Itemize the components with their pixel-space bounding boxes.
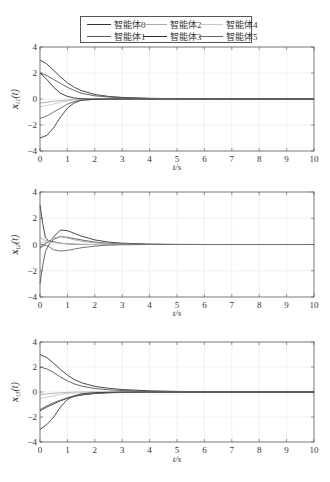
x-tick-label: 9	[284, 154, 289, 164]
legend-line-icon	[87, 36, 111, 37]
x-tick-label: 8	[257, 445, 262, 455]
x-tick-label: 10	[310, 445, 320, 455]
figure-canvas: 012345678910−4−2024t/sxi1(t)012345678910…	[0, 0, 330, 482]
x-tick-label: 4	[147, 300, 152, 310]
x-tick-label: 2	[93, 445, 98, 455]
legend: 智能体0 智能体1 智能体2 智能体3 智能体4 智能体5	[80, 16, 252, 43]
y-tick-label: 4	[33, 337, 38, 347]
x-tick-label: 7	[230, 300, 235, 310]
x-tick-label: 6	[202, 300, 207, 310]
y-axis-label: xi3(t)	[9, 381, 22, 403]
legend-line-icon	[143, 36, 167, 37]
x-tick-label: 3	[120, 300, 125, 310]
y-tick-label: −2	[27, 120, 37, 130]
legend-item-agent5: 智能体5	[199, 30, 258, 42]
x-axis-label: t/s	[173, 162, 182, 172]
x-tick-label: 6	[202, 445, 207, 455]
x-tick-label: 0	[38, 445, 43, 455]
legend-item-agent3: 智能体3	[143, 30, 202, 42]
subplot-3: 012345678910−4−2024t/sxi3(t)	[9, 337, 319, 464]
x-tick-label: 9	[284, 300, 289, 310]
subplot-2: 012345678910−4−2024t/sxi2(t)	[9, 187, 319, 318]
subplot-1: 012345678910−4−2024t/sxi1(t)	[9, 42, 319, 172]
x-tick-label: 1	[65, 445, 70, 455]
x-tick-label: 0	[38, 300, 43, 310]
x-tick-label: 8	[257, 300, 262, 310]
y-tick-label: 2	[33, 68, 38, 78]
legend-item-agent1: 智能体1	[87, 30, 146, 42]
y-axis-label: xi2(t)	[9, 234, 22, 256]
y-tick-label: 2	[33, 362, 38, 372]
x-tick-label: 3	[120, 154, 125, 164]
y-tick-label: 2	[33, 213, 38, 223]
x-tick-label: 8	[257, 154, 262, 164]
y-tick-label: 0	[33, 387, 38, 397]
legend-line-icon	[143, 24, 167, 25]
y-tick-label: 4	[33, 42, 38, 52]
x-tick-label: 2	[93, 154, 98, 164]
legend-line-icon	[199, 36, 223, 37]
x-tick-label: 3	[120, 445, 125, 455]
y-axis-label: xi1(t)	[9, 88, 22, 110]
x-tick-label: 1	[65, 154, 70, 164]
x-tick-label: 7	[230, 154, 235, 164]
x-tick-label: 1	[65, 300, 70, 310]
y-tick-label: 0	[33, 94, 38, 104]
x-tick-label: 6	[202, 154, 207, 164]
y-tick-label: −4	[27, 437, 37, 447]
x-tick-label: 10	[310, 300, 320, 310]
x-tick-label: 7	[230, 445, 235, 455]
y-tick-label: 4	[33, 187, 38, 197]
x-tick-label: 4	[147, 445, 152, 455]
x-tick-label: 9	[284, 445, 289, 455]
legend-line-icon	[199, 24, 223, 25]
y-tick-label: 0	[33, 240, 38, 250]
x-axis-label: t/s	[173, 454, 182, 464]
y-tick-label: −4	[27, 146, 37, 156]
y-tick-label: −4	[27, 292, 37, 302]
x-tick-label: 0	[38, 154, 43, 164]
legend-item-agent2: 智能体2	[143, 18, 202, 30]
legend-item-agent0: 智能体0	[87, 18, 146, 30]
legend-line-icon	[87, 24, 111, 25]
x-axis-label: t/s	[173, 308, 182, 318]
y-tick-label: −2	[27, 412, 37, 422]
y-tick-label: −2	[27, 266, 37, 276]
x-tick-label: 4	[147, 154, 152, 164]
legend-item-agent4: 智能体4	[199, 18, 258, 30]
x-tick-label: 2	[93, 300, 98, 310]
x-tick-label: 10	[310, 154, 320, 164]
